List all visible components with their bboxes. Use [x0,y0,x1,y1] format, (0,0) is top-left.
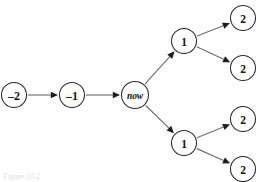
tree-diagram-canvas: –2–1now112222 [0,0,257,182]
node-t-plus-2-c: 2 [231,107,256,132]
node-label: 1 [181,36,187,48]
event-tree-figure: –2–1now112222 Figure 10.2 [0,0,257,182]
arrow-head-icon [113,92,120,99]
node-t-minus-1: –1 [60,83,85,108]
edge-line [145,57,170,84]
edge-t-now-to-t-plus-1-upper [145,51,175,84]
edge-t-plus-1-lower-to-t-plus-2-c [197,124,230,138]
node-label: 2 [240,114,246,126]
node-t-plus-1-upper: 1 [172,29,197,54]
node-label: 2 [240,13,246,25]
node-label: now [127,91,144,101]
node-t-minus-2: –2 [2,83,27,108]
node-t-plus-1-lower: 1 [172,131,197,156]
edge-line [197,127,223,138]
edge-line [146,106,169,129]
node-t-plus-2-b: 2 [231,56,256,81]
node-t-plus-2-a: 2 [231,6,256,31]
edge-t-now-to-t-plus-1-lower [146,106,174,134]
edge-line [197,26,223,36]
node-t-now: now [122,82,149,109]
node-label: 2 [240,164,246,176]
edge-t-minus-1-to-t-now [86,92,120,99]
nodes-layer: –2–1now112222 [2,6,256,182]
node-label: 2 [240,63,246,75]
node-label: –1 [65,89,78,103]
node-label: –2 [7,89,20,103]
edge-line [197,149,224,161]
node-label: 1 [181,138,187,150]
arrow-head-icon [51,92,58,99]
edge-t-plus-1-lower-to-t-plus-2-d [197,149,230,164]
edge-t-plus-1-upper-to-t-plus-2-b [197,47,231,62]
edge-line [197,47,224,59]
edge-t-plus-1-upper-to-t-plus-2-a [197,23,230,36]
node-t-plus-2-d: 2 [231,157,256,182]
figure-caption-fragment: Figure 10.2 [3,171,93,182]
edge-t-minus-2-to-t-minus-1 [28,92,58,99]
